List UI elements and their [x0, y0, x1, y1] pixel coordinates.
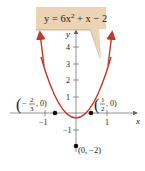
tick-y-3: 3 [66, 60, 70, 69]
svg-text:−: − [22, 99, 27, 108]
tick-x-neg1: −1 [39, 118, 48, 127]
vertex-label: (0, −2) [78, 145, 101, 155]
svg-text:2: 2 [101, 105, 105, 113]
svg-text:3: 3 [30, 105, 34, 113]
root-right-point [89, 111, 94, 116]
equation-callout: y = 6x2 + x − 2 [36, 7, 107, 58]
root-left-label: ( − 2 3 , 0) [16, 96, 47, 114]
tick-y-neg1: −1 [63, 126, 72, 135]
root-left-point [53, 111, 58, 116]
tick-x-1: 1 [105, 118, 109, 127]
tick-y-1: 1 [66, 93, 70, 102]
svg-text:2: 2 [30, 96, 34, 104]
tick-y-2: 2 [66, 76, 70, 85]
parabola-graph: 4 3 2 1 −1 −1 1 x y y = 6x2 + x − 2 ( − … [0, 0, 145, 171]
svg-text:(: ( [94, 96, 99, 114]
equation-label: y = 6x2 + x − 2 [44, 12, 107, 24]
svg-text:, 0): , 0) [36, 99, 47, 108]
svg-text:1: 1 [101, 96, 105, 104]
tick-y-4: 4 [66, 43, 70, 52]
x-axis-label: x [135, 116, 140, 126]
svg-text:, 0): , 0) [106, 99, 117, 108]
svg-text:(: ( [16, 96, 21, 114]
root-right-label: ( 1 2 , 0) [94, 96, 117, 114]
